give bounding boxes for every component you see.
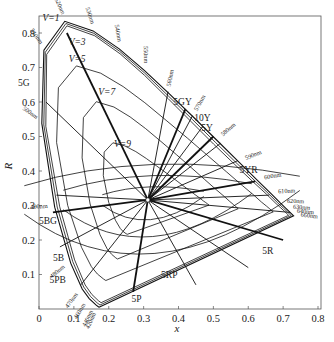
hue-line (60, 200, 148, 247)
y-tick-label: 0.7 (22, 62, 35, 73)
wavelength-label: 540nm (114, 24, 124, 42)
hue-label: 5P (131, 294, 141, 304)
hue-label: 10Y (194, 113, 211, 123)
y-tick-label: 0.1 (22, 269, 35, 280)
y-tick-label: 0.2 (22, 235, 35, 246)
hue-line (56, 195, 147, 200)
x-tick-label: 0 (36, 313, 41, 324)
wavelength-label: 660nm (300, 211, 318, 220)
value-level-label: V=3 (69, 37, 86, 47)
x-tick-label: 0.7 (277, 313, 290, 324)
x-axis-label: x (174, 322, 180, 334)
wavelength-label: 580nm (219, 121, 237, 138)
hue-label: 5GY (173, 97, 192, 107)
hue-label: 5G (18, 78, 30, 88)
hue-line (133, 200, 148, 292)
value-level-label: V=5 (69, 54, 86, 64)
value-level-label: V=1 (42, 13, 59, 23)
x-tick-label: 0.8 (311, 313, 324, 324)
white-point (146, 198, 150, 202)
wavelength-label: 560nm (165, 69, 175, 87)
hue-label: 5YR (240, 165, 259, 175)
x-tick-label: 0.3 (137, 313, 150, 324)
wavelength-label: 610nm (278, 187, 296, 195)
value-level-label: V=9 (114, 139, 131, 149)
chart-labels: 420nm440nm460nm470nm480nm490nm500nm510nm… (18, 0, 318, 330)
value-level-label: V=7 (98, 87, 116, 97)
wavelength-label: 550nm (143, 46, 150, 64)
wavelength-label: 570nm (192, 93, 207, 112)
hue-label: 5R (262, 246, 274, 256)
munsell-chromaticity-chart: 00.10.20.30.40.50.60.70.80.10.20.30.40.5… (0, 0, 334, 342)
y-tick-label: 0.4 (22, 166, 36, 177)
hue-line (46, 102, 148, 200)
hue-label: 5RP (161, 270, 177, 280)
wavelength-label: 590nm (244, 148, 263, 161)
hue-label: 5B (53, 253, 64, 263)
hue-label: 5BG (39, 216, 57, 226)
y-axis-label: R (2, 162, 14, 170)
y-tick-label: 0.5 (22, 131, 35, 142)
x-tick-label: 0.2 (102, 313, 115, 324)
wavelength-label: 490nm (30, 202, 48, 210)
plot-curves (24, 21, 300, 307)
x-tick-label: 0.5 (207, 313, 220, 324)
x-tick-label: 0.6 (242, 313, 255, 324)
hue-label: 5Y (201, 123, 213, 133)
hue-label: 5PB (49, 275, 65, 285)
wavelength-label: 530nm (85, 6, 97, 25)
wavelength-label: 600nm (264, 171, 282, 181)
